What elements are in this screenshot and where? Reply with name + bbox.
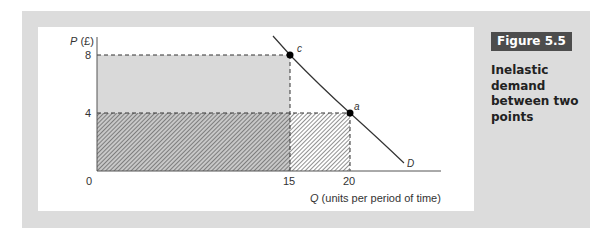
point-c-label: c [297, 43, 302, 54]
lower-right-hatched-region [290, 113, 350, 171]
point-a-label: a [354, 101, 360, 112]
x-axis-label: Q (units per period of time) [310, 192, 441, 204]
figure-caption: Inelastic demand between two points [491, 63, 581, 125]
curve-label-d: D [407, 158, 414, 169]
tick-label-q0: 0 [86, 175, 92, 187]
tick-label-q15: 15 [283, 175, 295, 187]
tick-label-p8: 8 [85, 49, 91, 61]
figure-number-badge: Figure 5.5 [491, 32, 572, 51]
tick-label-p4: 4 [85, 107, 91, 119]
point-c-marker [287, 52, 294, 59]
lower-left-hatched-region [97, 113, 290, 171]
upper-shaded-region [97, 55, 290, 113]
point-a-marker [347, 110, 354, 117]
tick-label-q20: 20 [343, 175, 355, 187]
y-axis-label: P (£) [70, 35, 94, 47]
